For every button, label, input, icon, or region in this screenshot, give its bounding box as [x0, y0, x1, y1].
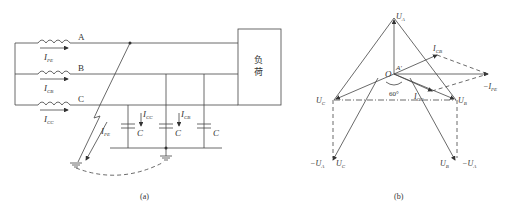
ua-label: UA: [396, 12, 406, 22]
load-label: 荷: [254, 67, 263, 77]
fault-current-label: IPE: [100, 126, 110, 137]
capacitor-label: C: [175, 128, 182, 138]
caption-b: (b): [394, 192, 404, 201]
load-label: 负: [254, 54, 263, 65]
capacitor-label: C: [137, 128, 144, 138]
diagram-canvas: A B C IPE ICB ICC IPE ICC ICB C C C 负 荷 …: [0, 0, 506, 211]
capacitor-label: C: [213, 128, 220, 138]
ub-label: UB: [458, 96, 467, 106]
neg-ua-left-label: −UA: [310, 159, 325, 169]
angle-label: 60°: [389, 90, 399, 98]
neg-ipe-label: −IPE: [483, 82, 497, 92]
current-icc-label: ICC: [43, 114, 54, 125]
cap-current-icb-label: ICB: [180, 109, 190, 120]
phasor-diagram: [333, 18, 488, 160]
ub-prime-label: UB: [440, 159, 449, 169]
uc-label: UC: [316, 96, 326, 106]
uc-prime-label: UC: [336, 159, 346, 169]
a-prime-label: A': [395, 64, 402, 72]
icb-label: ICB: [432, 44, 442, 54]
cap-current-icc-label: ICC: [142, 109, 153, 120]
phase-c-label: C: [78, 94, 84, 104]
circuit-diagram: [15, 29, 281, 175]
current-ipe-label: IPE: [43, 52, 53, 63]
caption-a: (a): [140, 192, 149, 201]
phase-a-label: A: [78, 32, 85, 42]
phase-b-label: B: [78, 63, 84, 73]
current-icb-label: ICB: [43, 83, 53, 94]
neg-ua-right-label: −UA: [462, 159, 477, 169]
origin-label: O: [385, 69, 392, 79]
